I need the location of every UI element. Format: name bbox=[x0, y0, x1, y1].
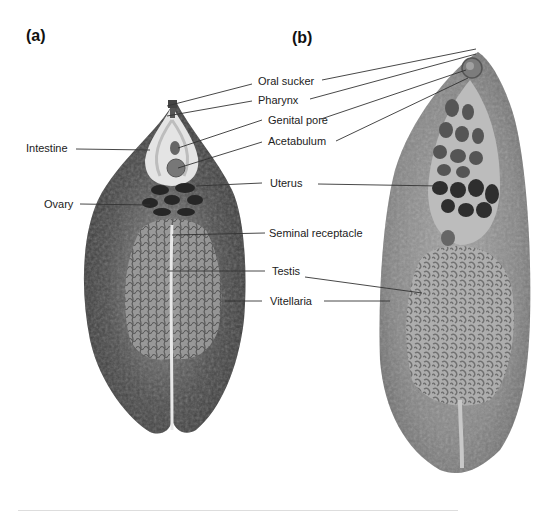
figure: (a) (b) bbox=[0, 0, 547, 511]
label-oral-sucker: Oral sucker bbox=[258, 75, 315, 87]
specimen-a bbox=[84, 100, 246, 434]
figure-canvas: (a) (b) bbox=[0, 0, 547, 511]
specimen-b-testis bbox=[406, 246, 514, 406]
specimen-a-midline bbox=[171, 225, 172, 430]
specimen-b-pharynx bbox=[466, 62, 474, 70]
label-acetabulum: Acetabulum bbox=[268, 135, 326, 147]
specimen-b-ovary bbox=[441, 230, 455, 246]
specimen-b-midline bbox=[460, 400, 462, 468]
specimen-a-acetabulum bbox=[167, 159, 185, 177]
specimen-a-testis bbox=[125, 219, 222, 360]
label-seminal-receptacle: Seminal receptacle bbox=[269, 227, 363, 239]
label-genital-pore: Genital pore bbox=[268, 114, 328, 126]
specimen-a-pharynx bbox=[170, 108, 175, 118]
label-vitellaria: Vitellaria bbox=[270, 295, 313, 307]
panel-label-a: (a) bbox=[26, 27, 46, 44]
label-ovary: Ovary bbox=[44, 198, 74, 210]
label-intestine: Intestine bbox=[26, 142, 68, 154]
specimen-b bbox=[380, 52, 531, 473]
panel-label-b: (b) bbox=[292, 29, 312, 46]
label-pharynx: Pharynx bbox=[258, 94, 299, 106]
label-uterus: Uterus bbox=[270, 177, 303, 189]
label-testis: Testis bbox=[272, 265, 301, 277]
